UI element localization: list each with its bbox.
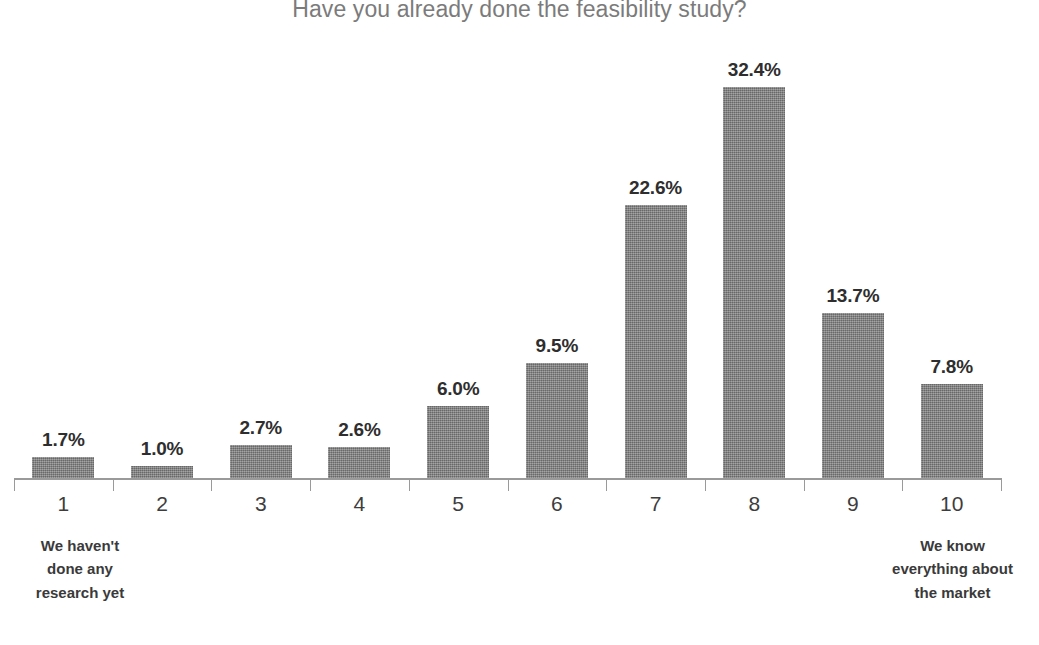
bar [131,466,193,478]
bar-value-label: 9.5% [497,335,617,357]
x-axis-tick [409,478,410,491]
bar-chart: Have you already done the feasibility st… [0,0,1039,645]
bar [723,87,785,478]
bar-value-label: 22.6% [596,177,716,199]
x-axis-tick [508,478,509,491]
x-axis-tick-label: 3 [211,492,311,516]
bar [921,384,983,478]
bar [230,445,292,478]
x-axis-tick-label: 8 [704,492,804,516]
x-axis-tick-label: 2 [112,492,212,516]
bar-value-label: 1.0% [102,438,222,460]
bar [822,313,884,478]
bar-value-label: 7.8% [892,356,1012,378]
annotation-line: everything about [866,557,1039,580]
x-axis-tick [310,478,311,491]
x-axis-tick-label: 5 [408,492,508,516]
x-axis-start-annotation: We haven't done any research yet [0,534,160,604]
x-axis-tick-label: 10 [902,492,1002,516]
x-axis-tick-label: 7 [606,492,706,516]
bar-value-label: 2.6% [299,419,419,441]
bar [32,457,94,478]
x-axis-tick-label: 9 [803,492,903,516]
bar-value-label: 32.4% [694,59,814,81]
bar-value-label: 6.0% [398,378,518,400]
x-axis-tick [14,478,15,491]
bar [526,363,588,478]
x-axis-tick [113,478,114,491]
x-axis-tick [804,478,805,491]
x-axis-tick [705,478,706,491]
x-axis-tick-label: 1 [13,492,113,516]
x-axis-tick [1001,478,1002,491]
annotation-line: We know [866,534,1039,557]
annotation-line: done any [0,557,160,580]
x-axis-tick-label: 6 [507,492,607,516]
x-axis-tick [211,478,212,491]
x-axis-end-annotation: We know everything about the market [866,534,1039,604]
annotation-line: the market [866,581,1039,604]
plot-area: 1.7%1.0%2.7%2.6%6.0%9.5%22.6%32.4%13.7%7… [0,0,1039,480]
annotation-line: We haven't [0,534,160,557]
bar-value-label: 13.7% [793,285,913,307]
bar [328,447,390,478]
bar [625,205,687,478]
x-axis-tick [606,478,607,491]
x-axis-tick [902,478,903,491]
bar [427,406,489,478]
x-axis-tick-label: 4 [309,492,409,516]
annotation-line: research yet [0,581,160,604]
